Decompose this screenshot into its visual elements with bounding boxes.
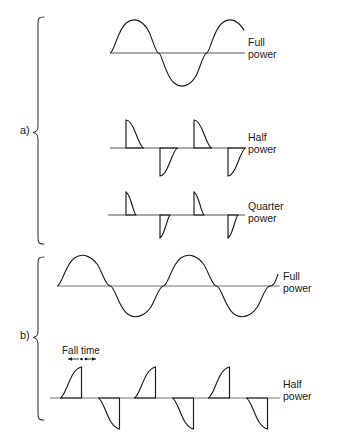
- pulse-a-half-pos-1: [126, 120, 144, 148]
- trace-label-line-2: power: [283, 390, 312, 402]
- trace-label-b-half-power: Half power: [283, 378, 312, 402]
- fall-time-dimension-arrow: [68, 357, 96, 360]
- trace-label-a-half-power: Half power: [248, 131, 277, 155]
- pulse-b-half-neg-1: [98, 398, 120, 429]
- trace-a-half-power: [110, 120, 246, 176]
- pulse-a-quarter-pos-2: [194, 192, 205, 215]
- group-a-brace: [33, 17, 44, 244]
- pulse-b-half-neg-3: [246, 398, 268, 429]
- pulse-a-half-neg-1: [160, 148, 178, 176]
- group-label-b: b): [20, 330, 30, 341]
- trace-label-a-full-power: Full power: [248, 36, 277, 60]
- trace-a-quarter-power: [108, 192, 245, 238]
- trace-label-line-1: Full: [283, 270, 312, 282]
- pulse-b-half-pos-3: [208, 367, 230, 398]
- pulse-b-half-pos-1: [60, 367, 82, 398]
- pulse-a-quarter-neg-2: [228, 215, 239, 238]
- trace-label-line-1: Half: [283, 378, 312, 390]
- trace-label-line-2: power: [248, 212, 284, 224]
- trace-label-a-quarter-power: Quarter power: [248, 200, 284, 224]
- trace-label-line-1: Half: [248, 131, 277, 143]
- pulse-b-half-pos-2: [134, 367, 156, 398]
- pulse-a-half-pos-2: [194, 120, 212, 148]
- group-b-brace: [33, 257, 44, 420]
- waveform-canvas: [0, 0, 348, 435]
- pulse-a-quarter-neg-1: [160, 215, 171, 238]
- pulse-b-half-neg-2: [172, 398, 194, 429]
- trace-label-line-2: power: [248, 143, 277, 155]
- pulse-a-half-neg-2: [228, 148, 246, 176]
- trace-b-full-power: [57, 255, 280, 316]
- trace-label-line-2: power: [248, 48, 277, 60]
- trace-label-line-2: power: [283, 282, 312, 294]
- waveform-figure: a) b) Full power Half power Quarter powe…: [0, 0, 348, 435]
- trace-label-line-1: Full: [248, 36, 277, 48]
- group-label-a: a): [20, 125, 30, 136]
- trace-b-half-power: [50, 357, 280, 429]
- trace-a-full-power: [110, 20, 245, 86]
- pulse-a-quarter-pos-1: [126, 192, 137, 215]
- trace-label-line-1: Quarter: [248, 200, 284, 212]
- fall-time-label: Fall time: [62, 345, 100, 356]
- trace-label-b-full-power: Full power: [283, 270, 312, 294]
